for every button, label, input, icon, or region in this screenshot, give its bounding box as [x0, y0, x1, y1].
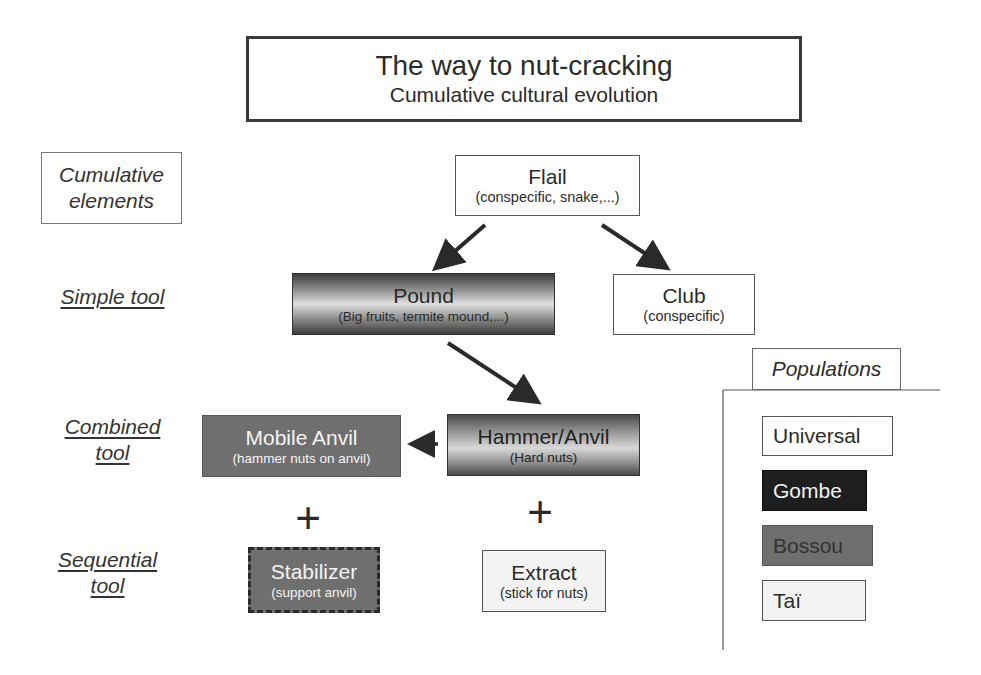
arrows-layer [0, 0, 981, 675]
legend-item-universal: Universal [762, 416, 893, 456]
arrow-flail-to-pound [438, 225, 485, 266]
arrow-flail-to-club [602, 225, 664, 266]
arrow-pound-to-hammer-anvil [448, 343, 535, 400]
legend-item-tai: Taï [762, 580, 866, 621]
legend-item-gombe: Gombe [762, 470, 867, 511]
legend-title: Populations [752, 348, 901, 390]
legend-item-bossou: Bossou [762, 525, 873, 566]
